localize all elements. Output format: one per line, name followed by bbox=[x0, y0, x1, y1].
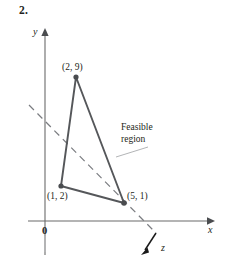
y-axis-label: y bbox=[33, 27, 37, 37]
figure-graphic bbox=[0, 0, 227, 277]
vertex-label-1-2: (1, 2) bbox=[47, 192, 68, 202]
vertex-label-2-9: (2, 9) bbox=[62, 63, 83, 73]
vertex-point-1-2 bbox=[58, 183, 63, 188]
problem-number: 2. bbox=[19, 5, 28, 17]
vertex-label-5-1: (5, 1) bbox=[127, 192, 148, 202]
x-axis-label: x bbox=[208, 225, 212, 235]
feasible-region-annotation-line1: Feasible bbox=[121, 122, 153, 134]
y-axis-arrowhead bbox=[41, 28, 48, 36]
annotation-leader-line bbox=[116, 147, 148, 157]
feasible-region-polygon bbox=[61, 77, 124, 203]
feasible-region-annotation-line2: region bbox=[121, 134, 153, 146]
z-axis-label: z bbox=[161, 243, 165, 253]
vertex-point-2-9 bbox=[73, 74, 78, 79]
x-axis bbox=[28, 217, 215, 225]
feasible-region-annotation: Feasible region bbox=[121, 122, 153, 145]
origin-label: 0 bbox=[42, 226, 47, 237]
figure-container: 2. y x z 0 (2, 9) (1, 2) (5, 1) Feasible… bbox=[0, 0, 227, 277]
z-direction-arrow bbox=[141, 233, 156, 255]
vertex-point-5-1 bbox=[121, 200, 127, 206]
